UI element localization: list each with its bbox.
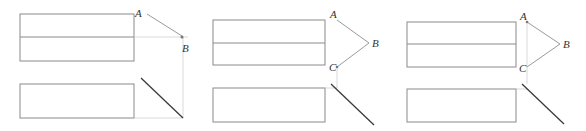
label-A: A (134, 7, 142, 19)
panel-2: A B C (213, 8, 379, 125)
front-view-rectangle (20, 84, 134, 118)
label-C: C (329, 61, 337, 73)
diagram-canvas: A B A B C A B C (0, 0, 586, 131)
edge-AB (337, 20, 369, 43)
edge-AB (527, 22, 560, 44)
diagonal-line (331, 84, 374, 125)
edge-BC (337, 43, 369, 67)
front-view-rectangle (213, 88, 325, 122)
label-C: C (519, 62, 527, 74)
diagonal-line (141, 78, 183, 118)
label-B: B (372, 37, 379, 49)
panel-1: A B (20, 7, 189, 118)
edge-BC (527, 44, 560, 67)
diagonal-line (522, 84, 564, 124)
front-view-rectangle (407, 89, 516, 122)
label-B: B (563, 38, 570, 50)
label-A: A (519, 10, 527, 22)
label-B: B (182, 42, 189, 54)
point-B-marker (181, 36, 184, 39)
panel-3: A B C (407, 10, 570, 124)
edge-AB (147, 14, 182, 36)
label-A: A (329, 8, 337, 20)
